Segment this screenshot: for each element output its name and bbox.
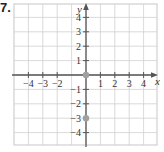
x-tick-label: 2 [112,78,117,89]
y-tick-label: 2 [76,41,81,52]
coordinate-plane: xy −4−3−212344321−1−2−3−4 [0,0,164,152]
x-tick-label: 4 [141,78,146,89]
x-tick-label: 3 [127,78,132,89]
data-point [83,72,89,78]
y-tick-label: −3 [70,113,81,124]
x-tick-label: −2 [52,78,63,89]
y-tick-label: 4 [76,12,81,23]
x-tick-label: −3 [37,78,48,89]
y-tick-label: −1 [70,84,81,95]
y-tick-label: −2 [70,98,81,109]
data-point [83,115,89,121]
y-tick-label: 3 [76,26,81,37]
x-axis-label: x [154,75,160,87]
y-tick-label: −4 [70,127,81,138]
x-tick-label: 1 [98,78,103,89]
y-tick-label: 1 [76,55,81,66]
x-tick-label: −4 [23,78,34,89]
